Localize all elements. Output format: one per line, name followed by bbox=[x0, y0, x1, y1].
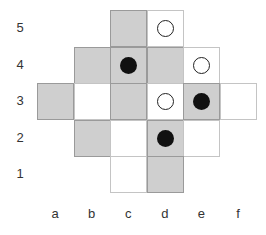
board-square-c1[interactable] bbox=[110, 156, 147, 193]
board-square-c5[interactable] bbox=[110, 10, 147, 47]
board-square-c2[interactable] bbox=[110, 120, 147, 157]
row-label: 3 bbox=[14, 93, 26, 108]
board-square-b3[interactable] bbox=[74, 83, 111, 120]
board-square-a3[interactable] bbox=[37, 83, 74, 120]
board-square-d4[interactable] bbox=[147, 47, 184, 84]
column-label: b bbox=[82, 206, 102, 221]
black-stone-icon[interactable] bbox=[157, 130, 174, 147]
black-stone-icon[interactable] bbox=[120, 57, 137, 74]
white-stone-icon[interactable] bbox=[157, 20, 174, 37]
board-square-e4[interactable] bbox=[183, 47, 220, 84]
board-square-d3[interactable] bbox=[147, 83, 184, 120]
board-square-d2[interactable] bbox=[147, 120, 184, 157]
row-label: 5 bbox=[14, 20, 26, 35]
board-square-f3[interactable] bbox=[220, 83, 257, 120]
board-square-d1[interactable] bbox=[147, 156, 184, 193]
white-stone-icon[interactable] bbox=[193, 57, 210, 74]
black-stone-icon[interactable] bbox=[193, 93, 210, 110]
row-label: 2 bbox=[14, 130, 26, 145]
row-label: 4 bbox=[14, 57, 26, 72]
board-square-e2[interactable] bbox=[183, 120, 220, 157]
white-stone-icon[interactable] bbox=[157, 93, 174, 110]
board-square-b2[interactable] bbox=[74, 120, 111, 157]
board-square-b4[interactable] bbox=[74, 47, 111, 84]
board-square-c3[interactable] bbox=[110, 83, 147, 120]
column-label: f bbox=[228, 206, 248, 221]
board-square-c4[interactable] bbox=[110, 47, 147, 84]
column-label: d bbox=[155, 206, 175, 221]
board-square-d5[interactable] bbox=[147, 10, 184, 47]
board-square-e3[interactable] bbox=[183, 83, 220, 120]
column-label: c bbox=[118, 206, 138, 221]
row-label: 1 bbox=[14, 166, 26, 181]
column-label: a bbox=[45, 206, 65, 221]
column-label: e bbox=[191, 206, 211, 221]
